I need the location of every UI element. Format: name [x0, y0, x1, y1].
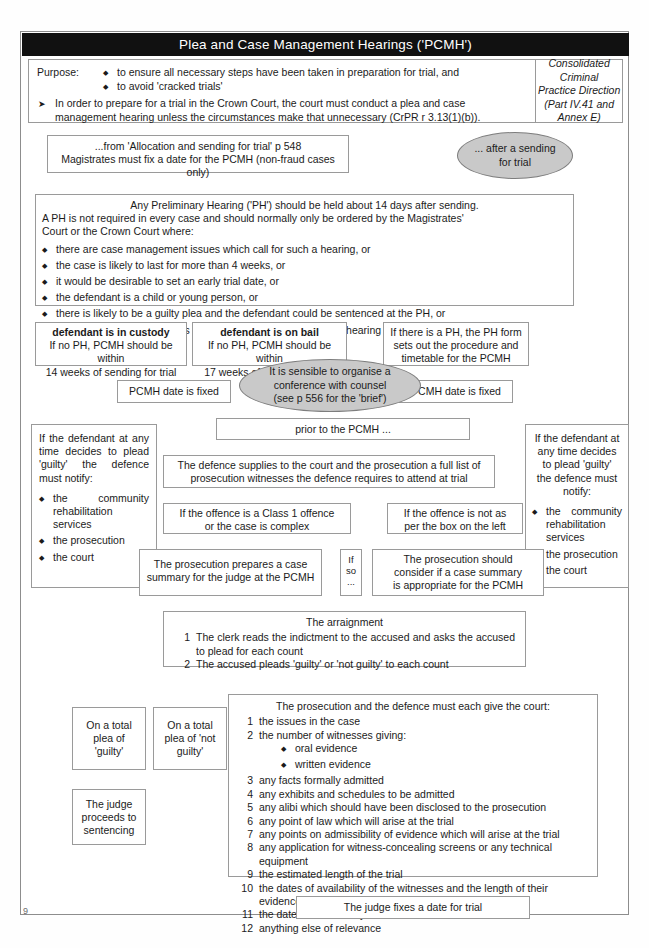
ph-bullet: the case is likely to last for more than… [42, 259, 567, 272]
node-conference-with-counsel: It is sensible to organise a conference … [239, 359, 421, 412]
must-give-item: 7any points on admissibility of evidence… [237, 828, 589, 841]
arraignment-list: 1 The clerk reads the indictment to the … [174, 631, 515, 671]
plea-guilty-line2: plea of [79, 732, 139, 745]
must-give-text: any facts formally admitted [259, 774, 384, 786]
notify-left-item: the court [39, 551, 149, 564]
page-title: Plea and Case Management Hearings ('PCMH… [22, 33, 629, 56]
must-give-number: 4 [237, 788, 253, 801]
notify-left-item: the community rehabilitation services [39, 492, 149, 532]
reference-line-1: Consolidated Criminal [536, 57, 622, 84]
node-allocation-line1: ...from 'Allocation and sending for tria… [54, 140, 342, 153]
conference-line2: conference with counsel [269, 379, 390, 392]
node-preliminary-hearing: Any Preliminary Hearing ('PH') should be… [35, 194, 574, 306]
must-give-item: 9the estimated length of the trial [237, 868, 589, 881]
purpose-bullet-1: to ensure all necessary steps have been … [103, 66, 527, 80]
node-allocation: ...from 'Allocation and sending for tria… [47, 135, 349, 173]
must-give-text: any exhibits and schedules to be admitte… [259, 788, 455, 800]
arraignment-item-number: 2 [174, 658, 190, 671]
must-give-subbullet-wrap: oral evidence written evidence [237, 742, 589, 771]
must-give-item: 8any application for witness-concealing … [237, 841, 589, 868]
arraignment-item-number: 1 [174, 631, 190, 644]
must-give-text: the number of witnesses giving: [259, 729, 406, 741]
node-class1-offence: If the offence is a Class 1 offence or t… [163, 503, 351, 534]
defence-supplies-line2: prosecution witnesses the defence requir… [170, 472, 488, 485]
class1-line2: or the case is complex [170, 520, 344, 533]
notify-left-heading: If the defendant at any time decides to … [39, 432, 149, 485]
purpose-bullet-2-text: to avoid 'cracked trials' [117, 80, 223, 92]
must-give-sub-item: written evidence [281, 758, 589, 771]
judge-fixes-date-text: The judge fixes a date for trial [297, 897, 529, 918]
conference-line1: It is sensible to organise a [269, 365, 390, 378]
ph-line3: Court or the Crown Court where: [42, 225, 567, 238]
notify-right-item: the prosecution [532, 548, 622, 561]
node-prosecution-prepares-summary: The prosecution prepares a case summary … [139, 549, 322, 596]
ph-bullet: there are case management issues which c… [42, 243, 567, 256]
notify-right-heading-3: to plead 'guilty' [532, 458, 622, 471]
pcmh-date-left-text: PCMH date is fixed [118, 381, 230, 402]
node-pcmh-date-left: PCMH date is fixed [117, 380, 231, 403]
phform-line3: timetable for the PCMH [390, 352, 522, 365]
conference-line3: (see p 556 for the 'brief') [269, 392, 390, 405]
purpose-arrow-note: In order to prepare for a trial in the C… [37, 97, 527, 124]
node-defendant-in-custody: defendant is in custody If no PH, PCMH s… [35, 322, 187, 366]
purpose-band: Purpose: to ensure all necessary steps h… [28, 59, 623, 123]
node-defence-supplies-list: The defence supplies to the court and th… [163, 455, 495, 488]
custody-line3: 14 weeks of sending for trial [42, 366, 180, 379]
defence-supplies-line1: The defence supplies to the court and th… [170, 459, 488, 472]
plea-not-guilty-line2: plea of 'not [160, 732, 220, 745]
arraignment-item-text: The clerk reads the indictment to the ac… [196, 631, 515, 656]
purpose-label: Purpose: [37, 66, 79, 78]
must-give-item: 12anything else of relevance [237, 922, 589, 935]
must-give-heading: The prosecution and the defence must eac… [237, 700, 589, 713]
node-prior-to-pcmh: prior to the PCMH ... [216, 418, 470, 440]
notify-right-list: the community rehabilitation services th… [532, 505, 622, 577]
prosecution-should-line1: The prosecution should [379, 553, 537, 566]
prosecution-prepares-line1: The prosecution prepares a case [146, 558, 315, 571]
reference-line-2: Practice Direction [538, 84, 620, 98]
must-give-item: 3any facts formally admitted [237, 774, 589, 787]
must-give-text: any alibi which should have been disclos… [259, 801, 546, 813]
must-give-number: 9 [237, 868, 253, 881]
notify-right-item: the community rehabilitation services [532, 505, 622, 545]
ph-line2: A PH is not required in every case and s… [42, 212, 567, 225]
purpose-bullet-1-text: to ensure all necessary steps have been … [117, 66, 459, 78]
reference-panel: Consolidated Criminal Practice Direction… [535, 60, 622, 122]
node-ph-form: If there is a PH, the PH form sets out t… [383, 322, 529, 366]
class1-line1: If the offence is a Class 1 offence [170, 507, 344, 520]
plea-not-guilty-line1: On a total [160, 719, 220, 732]
must-give-number: 10 [237, 882, 253, 895]
purpose-bullet-2: to avoid 'cracked trials' [103, 80, 527, 94]
node-after-sending: ... after a sending for trial [457, 132, 573, 179]
must-give-number: 11 [237, 908, 253, 921]
must-give-number: 8 [237, 841, 253, 854]
if-so-line3: ... [343, 576, 359, 587]
must-give-number: 6 [237, 815, 253, 828]
must-give-item: 4any exhibits and schedules to be admitt… [237, 788, 589, 801]
ph-line1: Any Preliminary Hearing ('PH') should be… [42, 199, 567, 212]
judge-sentencing-line2: proceeds to [79, 811, 139, 824]
arraignment-item: 2 The accused pleads 'guilty' or 'not gu… [174, 658, 515, 671]
node-not-as-per-left: If the offence is not as per the box on … [387, 503, 523, 534]
node-after-sending-line2: for trial [474, 156, 555, 169]
must-give-sub-list: oral evidence written evidence [281, 742, 589, 771]
must-give-text: the estimated length of the trial [259, 868, 403, 880]
node-if-so: If so ... [340, 549, 362, 596]
prosecution-prepares-line2: summary for the judge at the PCMH [146, 571, 315, 584]
if-so-line2: so [343, 565, 359, 576]
must-give-sub-item: oral evidence [281, 742, 589, 755]
prosecution-should-line3: is appropriate for the PCMH [379, 579, 537, 592]
must-give-text: any application for witness-concealing s… [259, 841, 552, 866]
phform-line1: If there is a PH, the PH form [390, 326, 522, 339]
ph-bullet: there is likely to be a guilty plea and … [42, 307, 567, 320]
phform-line2: sets out the procedure and [390, 339, 522, 352]
must-give-item: 5any alibi which should have been disclo… [237, 801, 589, 814]
notas-line1: If the offence is not as [394, 507, 516, 520]
ph-bullet: the defendant is a child or young person… [42, 291, 567, 304]
node-allocation-line2: Magistrates must fix a date for the PCMH… [54, 153, 342, 179]
must-give-text: any points on admissibility of evidence … [259, 828, 560, 840]
arraignment-item: 1 The clerk reads the indictment to the … [174, 631, 515, 658]
node-after-sending-line1: ... after a sending [474, 142, 555, 155]
notify-right-heading-1: If the defendant at [532, 432, 622, 445]
plea-not-guilty-line3: guilty' [160, 745, 220, 758]
judge-sentencing-line3: sentencing [79, 824, 139, 837]
